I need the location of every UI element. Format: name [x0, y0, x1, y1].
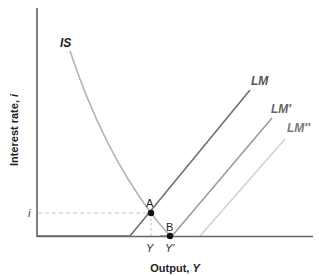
tick-y: Y [146, 242, 154, 254]
islm-chart: IS LM LM′ LM″ A B Y Y′ i Output, Y Inter… [0, 0, 319, 276]
x-axis-title: Output, Y [150, 262, 201, 274]
point-b-label: B [166, 221, 173, 233]
lm-label: LM [251, 74, 269, 88]
tick-i: i [28, 207, 31, 219]
tick-y-prime: Y′ [165, 242, 175, 254]
y-axis-title: Interest rate, i [8, 93, 20, 166]
point-b [167, 233, 173, 239]
is-curve [70, 51, 171, 236]
lm-double-prime-label: LM″ [287, 121, 311, 135]
is-label: IS [60, 36, 71, 50]
point-a [148, 210, 154, 216]
lm-prime-label: LM′ [271, 102, 292, 116]
point-a-label: A [146, 197, 154, 209]
